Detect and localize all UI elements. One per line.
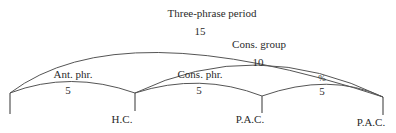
arc-ant-phr [10,82,135,94]
cadence-label-pac-2: P.A.C. [357,116,386,128]
span-count-repeat: 5 [319,85,325,97]
span-label-cons-group: Cons. group [232,38,286,50]
span-label-ant-phr: Ant. phr. [54,68,93,80]
span-count-ant-phr: 5 [65,84,71,96]
span-count-cons-group: 10 [253,56,265,68]
cadence-label-hc: H.C. [112,113,133,125]
phrase-diagram: Three-phrase period 15 Cons. group 10 An… [0,0,396,133]
span-count-cons-phr: 5 [196,84,202,96]
span-label-repeat: % [318,73,326,83]
span-label-three-phrase-period: Three-phrase period [168,7,257,19]
span-count-three-phrase-period: 15 [195,25,207,37]
span-label-cons-phr: Cons. phr. [178,68,223,80]
cadence-label-pac-1: P.A.C. [236,113,265,125]
arc-cons-group [135,65,383,97]
